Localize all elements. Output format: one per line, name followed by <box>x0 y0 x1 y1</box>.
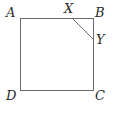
square-outline <box>20 18 93 90</box>
vertex-label-b: B <box>95 6 105 19</box>
vertex-label-d: D <box>6 89 16 102</box>
point-label-x: X <box>64 2 73 15</box>
vertex-label-c: C <box>95 89 105 102</box>
point-label-y: Y <box>96 33 105 46</box>
geometry-figure: A B C D X Y <box>0 0 117 113</box>
vertex-label-a: A <box>6 6 15 19</box>
segment-xy-line <box>72 18 93 39</box>
